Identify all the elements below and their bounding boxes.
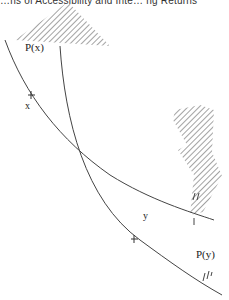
label-x: x <box>25 100 30 111</box>
label-px: P(x) <box>25 41 44 53</box>
label-y: y <box>143 210 148 221</box>
hatch-marks-bottom <box>203 271 212 281</box>
label-py: P(y) <box>196 248 215 260</box>
hatched-region-top <box>15 2 110 46</box>
